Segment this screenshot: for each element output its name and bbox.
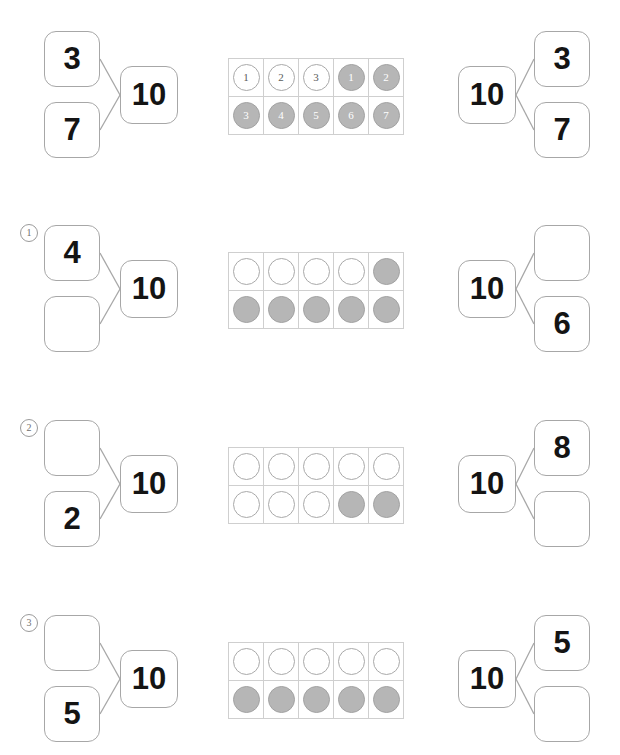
counter-filled[interactable] xyxy=(373,258,400,285)
bond-left-part-b-box[interactable]: 7 xyxy=(44,102,100,158)
bond-right-part-a-box[interactable]: 8 xyxy=(534,420,590,476)
counter-filled[interactable] xyxy=(373,686,400,713)
counter-empty[interactable] xyxy=(268,453,295,480)
ten-frame-cell: 2 xyxy=(264,59,299,97)
bond-right-whole-box[interactable]: 10 xyxy=(458,650,516,708)
counter-filled[interactable] xyxy=(233,686,260,713)
counter-filled[interactable] xyxy=(303,686,330,713)
counter-empty[interactable]: 2 xyxy=(268,64,295,91)
bond-right-part-b-box[interactable]: 6 xyxy=(534,296,590,352)
bond-left-part-b-box-empty[interactable] xyxy=(44,296,100,352)
counter-label: 2 xyxy=(278,72,284,83)
ten-frame-cell xyxy=(369,448,404,486)
bond-right-part-b-box-empty[interactable] xyxy=(534,686,590,742)
counter-filled[interactable]: 3 xyxy=(233,102,260,129)
counter-empty[interactable] xyxy=(373,453,400,480)
ten-frame-cell xyxy=(264,486,299,524)
counter-filled[interactable]: 6 xyxy=(338,102,365,129)
bond-left-whole-box[interactable]: 10 xyxy=(120,650,178,708)
counter-filled[interactable] xyxy=(338,491,365,518)
ten-frame-cell xyxy=(299,253,334,291)
ten-frame-cell xyxy=(334,291,369,329)
counter-empty[interactable] xyxy=(338,648,365,675)
counter-label: 4 xyxy=(278,110,284,121)
ten-frame-cell xyxy=(229,681,264,719)
ten-frame-cell xyxy=(369,253,404,291)
counter-empty[interactable] xyxy=(268,491,295,518)
bond-left-part-a-box-empty[interactable] xyxy=(44,615,100,671)
counter-label: 1 xyxy=(243,72,249,83)
ten-frame-cell xyxy=(299,681,334,719)
counter-empty[interactable] xyxy=(233,491,260,518)
counter-filled[interactable] xyxy=(373,296,400,323)
counter-empty[interactable] xyxy=(303,648,330,675)
counter-filled[interactable] xyxy=(338,296,365,323)
ten-frame-cell: 7 xyxy=(369,97,404,135)
ten-frame-cell xyxy=(229,643,264,681)
ten-frame-cell xyxy=(369,643,404,681)
bond-left-whole-box[interactable]: 10 xyxy=(120,66,178,124)
bond-right-whole-box[interactable]: 10 xyxy=(458,66,516,124)
counter-filled[interactable] xyxy=(268,296,295,323)
number-bond-left: 210 xyxy=(28,407,228,582)
bond-right-part-b-box-empty[interactable] xyxy=(534,491,590,547)
bond-right-whole-box[interactable]: 10 xyxy=(458,260,516,318)
bond-left-part-a-box-empty[interactable] xyxy=(44,420,100,476)
bond-left-whole-box[interactable]: 10 xyxy=(120,455,178,513)
counter-filled[interactable] xyxy=(338,686,365,713)
counter-empty[interactable]: 1 xyxy=(233,64,260,91)
bond-right-part-b-box[interactable]: 7 xyxy=(534,102,590,158)
counter-filled[interactable]: 7 xyxy=(373,102,400,129)
ten-frame-cell xyxy=(229,486,264,524)
bond-left-part-a-box[interactable]: 3 xyxy=(44,31,100,87)
counter-label: 1 xyxy=(348,72,354,83)
ten-frame-cell: 1 xyxy=(334,59,369,97)
counter-empty[interactable] xyxy=(268,258,295,285)
counter-label: 6 xyxy=(348,110,354,121)
counter-empty[interactable] xyxy=(303,453,330,480)
ten-frame-cell xyxy=(299,291,334,329)
bond-left-part-b-box[interactable]: 2 xyxy=(44,491,100,547)
counter-empty[interactable] xyxy=(233,453,260,480)
ten-frame-cell xyxy=(369,681,404,719)
counter-filled[interactable]: 1 xyxy=(338,64,365,91)
ten-frame xyxy=(228,642,404,719)
counter-empty[interactable] xyxy=(233,648,260,675)
counter-empty[interactable]: 3 xyxy=(303,64,330,91)
counter-filled[interactable] xyxy=(233,296,260,323)
ten-frame-cell: 4 xyxy=(264,97,299,135)
bond-left-part-a-box[interactable]: 4 xyxy=(44,225,100,281)
counter-empty[interactable] xyxy=(268,648,295,675)
bond-right-part-a-box-empty[interactable] xyxy=(534,225,590,281)
problem-row: 2210810 xyxy=(0,407,620,582)
ten-frame xyxy=(228,252,404,329)
number-bond-right: 3710 xyxy=(455,18,620,193)
bond-left-whole-box[interactable]: 10 xyxy=(120,260,178,318)
counter-filled[interactable]: 4 xyxy=(268,102,295,129)
counter-filled[interactable]: 5 xyxy=(303,102,330,129)
counter-filled[interactable] xyxy=(303,296,330,323)
ten-frame-cell xyxy=(299,643,334,681)
counter-filled[interactable]: 2 xyxy=(373,64,400,91)
counter-empty[interactable] xyxy=(303,258,330,285)
bond-right-part-a-box[interactable]: 5 xyxy=(534,615,590,671)
counter-label: 7 xyxy=(383,110,389,121)
bond-left-part-b-box[interactable]: 5 xyxy=(44,686,100,742)
counter-empty[interactable] xyxy=(233,258,260,285)
counter-empty[interactable] xyxy=(373,648,400,675)
problem-row: 1410610 xyxy=(0,212,620,387)
counter-empty[interactable] xyxy=(303,491,330,518)
number-bond-left: 410 xyxy=(28,212,228,387)
ten-frame: 1231234567 xyxy=(228,58,404,135)
counter-empty[interactable] xyxy=(338,453,365,480)
ten-frame-cell: 3 xyxy=(299,59,334,97)
bond-right-whole-box[interactable]: 10 xyxy=(458,455,516,513)
number-bond-left: 3710 xyxy=(28,18,228,193)
counter-empty[interactable] xyxy=(338,258,365,285)
bond-right-part-a-box[interactable]: 3 xyxy=(534,31,590,87)
counter-filled[interactable] xyxy=(373,491,400,518)
counter-filled[interactable] xyxy=(268,686,295,713)
counter-label: 3 xyxy=(243,110,249,121)
ten-frame-cell xyxy=(369,486,404,524)
ten-frame-cell xyxy=(334,681,369,719)
